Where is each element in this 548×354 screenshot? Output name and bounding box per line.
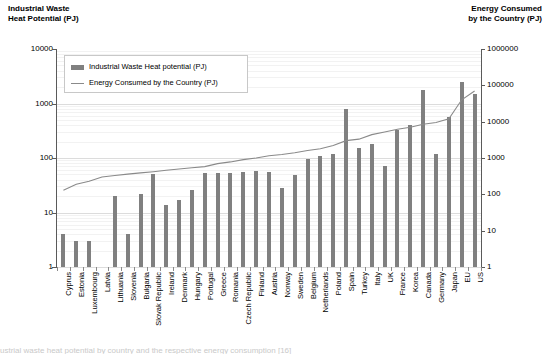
- x-axis-tickmark: [211, 267, 212, 271]
- x-axis-label: Cyprus: [65, 272, 73, 296]
- x-axis-label: Japan: [451, 272, 459, 292]
- x-axis-label: Germany: [438, 272, 446, 303]
- x-axis-label: Czech Republic: [245, 272, 253, 325]
- legend-entry-bar: Industrial Waste Heat potential (PJ): [71, 61, 207, 73]
- x-axis-tickmark: [173, 267, 174, 271]
- x-axis-label: Turkey: [361, 272, 369, 295]
- x-axis-tickmark: [70, 267, 71, 271]
- x-axis-tickmark: [83, 267, 84, 271]
- x-axis-tickmark: [481, 267, 482, 271]
- x-axis-label: Ireland: [168, 272, 176, 295]
- x-axis-label: Poland: [335, 272, 343, 295]
- x-axis-label: Bulgaria: [143, 272, 151, 300]
- x-axis-label: Sweden: [297, 272, 305, 299]
- right-axis-tick-label: 10000: [487, 118, 509, 126]
- right-axis-title: Energy Consumed by the Country (PJ): [468, 4, 542, 24]
- right-axis-tick-label: 100: [487, 190, 500, 198]
- legend-entry-line: Energy Consumed by the Country (PJ): [71, 77, 218, 89]
- left-axis-tick-label: 100: [40, 154, 53, 162]
- x-axis-tickmark: [288, 267, 289, 271]
- x-axis-tickmark: [455, 267, 456, 271]
- x-axis-tickmark: [353, 267, 354, 271]
- x-axis-label: Netherlands: [322, 272, 330, 312]
- x-axis-tickmark: [340, 267, 341, 271]
- x-axis-tickmark: [301, 267, 302, 271]
- x-axis-tickmark: [224, 267, 225, 271]
- x-axis-label: EU: [464, 272, 472, 282]
- x-axis-tickmark: [198, 267, 199, 271]
- x-axis-tickmark: [391, 267, 392, 271]
- x-axis-label: Greece: [220, 272, 228, 297]
- x-axis-category-labels: CyprusEstoniaLuxembourgLatviaLithuaniaSl…: [56, 272, 480, 350]
- left-axis-tick-label: 10000: [31, 45, 53, 53]
- x-axis-tickmark: [430, 267, 431, 271]
- x-axis-label: France: [399, 272, 407, 295]
- x-axis-tickmark: [404, 267, 405, 271]
- x-axis-tickmark: [57, 267, 58, 271]
- x-axis-tickmark: [185, 267, 186, 271]
- x-axis-label: Denmark: [181, 272, 189, 302]
- x-axis-label: Lithuania: [117, 272, 125, 302]
- x-axis-tickmark: [160, 267, 161, 271]
- x-axis-tickmark: [378, 267, 379, 271]
- x-axis-tickmark: [314, 267, 315, 271]
- x-axis-tickmark: [263, 267, 264, 271]
- x-axis-tickmark: [121, 267, 122, 271]
- x-axis-label: Belgium: [310, 272, 318, 299]
- x-axis-label: Portugal: [207, 272, 215, 300]
- x-axis-label: Slovak Republic: [155, 272, 163, 326]
- x-axis-label: Korea: [412, 272, 420, 292]
- right-axis-tick-label: 10: [487, 227, 496, 235]
- x-axis-tickmark: [147, 267, 148, 271]
- chart-figure: Industrial Waste Heat Potential (PJ) Ene…: [0, 0, 548, 354]
- x-axis-tickmark: [327, 267, 328, 271]
- left-axis-title: Industrial Waste Heat Potential (PJ): [8, 4, 79, 24]
- figure-caption: ustrial waste heat potential by country …: [0, 346, 548, 354]
- x-axis-label: Spain: [348, 272, 356, 291]
- x-axis-tickmark: [442, 267, 443, 271]
- x-axis-tickmark: [365, 267, 366, 271]
- right-axis-tick-label: 100000: [487, 81, 514, 89]
- x-axis-tickmark: [417, 267, 418, 271]
- right-axis-tick-label: 1000: [487, 154, 505, 162]
- x-axis-tickmark: [275, 267, 276, 271]
- x-axis-tickmark: [250, 267, 251, 271]
- right-axis-tick-label: 1000000: [487, 45, 518, 53]
- x-axis-tickmark: [134, 267, 135, 271]
- left-axis-tick-label: 1000: [35, 100, 53, 108]
- line-swatch-icon: [71, 83, 84, 84]
- x-axis-tickmark: [108, 267, 109, 271]
- legend-label-bar: Industrial Waste Heat potential (PJ): [89, 63, 207, 71]
- x-axis-label: Latvia: [104, 272, 112, 292]
- x-axis-label: UK: [387, 272, 395, 282]
- x-axis-label: Italy: [374, 272, 382, 286]
- legend-label-line: Energy Consumed by the Country (PJ): [89, 79, 218, 87]
- x-axis-label: Austria: [271, 272, 279, 295]
- x-axis-label: Finland: [258, 272, 266, 297]
- x-axis-label: Norway: [284, 272, 292, 297]
- x-axis-tickmark: [96, 267, 97, 271]
- x-axis-label: Canada: [425, 272, 433, 298]
- chart-legend: Industrial Waste Heat potential (PJ) Ene…: [64, 55, 248, 93]
- x-axis-tickmark: [237, 267, 238, 271]
- x-axis-label: Hungary: [194, 272, 202, 300]
- x-axis-label: Romania: [232, 272, 240, 302]
- x-axis-label: Luxembourg: [91, 272, 99, 314]
- x-axis-label: Slovenia: [130, 272, 138, 301]
- right-axis-tick-label: 1: [487, 263, 491, 271]
- bar-swatch-icon: [71, 65, 84, 70]
- x-axis-label: Estonia: [78, 272, 86, 297]
- x-axis-label: US: [477, 272, 485, 282]
- x-axis-tickmark: [468, 267, 469, 271]
